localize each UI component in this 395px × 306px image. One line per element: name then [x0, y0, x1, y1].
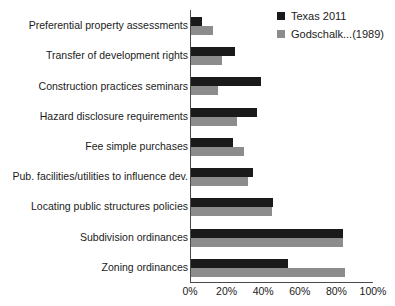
value-axis-tick-labels: 0%20%40%60%80%100% [190, 285, 380, 299]
bar-group [191, 191, 373, 221]
bar-texas-2011 [191, 259, 288, 268]
bar-godschalk-1989 [191, 238, 343, 247]
bar-group [191, 131, 373, 161]
bar-chart-figure: Texas 2011 Godschalk...(1989) Preferenti… [0, 0, 395, 306]
category-label: Pub. facilities/utilities to influence d… [2, 170, 188, 182]
bar-godschalk-1989 [191, 86, 218, 95]
x-axis-tick-label: 100% [356, 285, 390, 297]
category-label: Fee simple purchases [2, 140, 188, 152]
category-label: Hazard disclosure requirements [2, 110, 188, 122]
bar-godschalk-1989 [191, 117, 237, 126]
x-axis-tick-label: 80% [319, 285, 353, 297]
bar-godschalk-1989 [191, 147, 244, 156]
x-axis-line [190, 282, 373, 283]
bar-texas-2011 [191, 229, 343, 238]
plot-area [190, 10, 373, 282]
bar-group [191, 161, 373, 191]
category-axis-labels: Preferential property assessmentsTransfe… [0, 10, 188, 282]
bar-godschalk-1989 [191, 56, 222, 65]
bar-group [191, 252, 373, 282]
x-axis-tick-label: 0% [173, 285, 207, 297]
bar-godschalk-1989 [191, 268, 345, 277]
bar-group [191, 101, 373, 131]
category-label: Zoning ordinances [2, 261, 188, 273]
bar-group [191, 222, 373, 252]
category-label: Locating public structures policies [2, 200, 188, 212]
bar-godschalk-1989 [191, 177, 248, 186]
bar-texas-2011 [191, 77, 261, 86]
bar-texas-2011 [191, 198, 273, 207]
bar-godschalk-1989 [191, 26, 213, 35]
x-axis-tick-label: 40% [246, 285, 280, 297]
bar-texas-2011 [191, 47, 235, 56]
bar-texas-2011 [191, 168, 253, 177]
bar-godschalk-1989 [191, 207, 272, 216]
x-axis-tick-label: 60% [283, 285, 317, 297]
bar-texas-2011 [191, 108, 257, 117]
category-label: Transfer of development rights [2, 49, 188, 61]
bar-group [191, 10, 373, 40]
bar-texas-2011 [191, 17, 202, 26]
category-label: Construction practices seminars [2, 80, 188, 92]
category-label: Subdivision ordinances [2, 231, 188, 243]
bar-texas-2011 [191, 138, 233, 147]
category-label: Preferential property assessments [2, 19, 188, 31]
x-axis-tick-label: 20% [210, 285, 244, 297]
bar-group [191, 40, 373, 70]
bar-group [191, 70, 373, 100]
